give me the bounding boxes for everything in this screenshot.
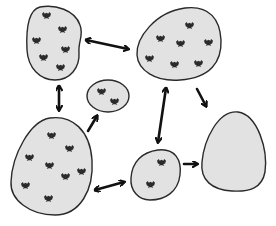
patch-bottom-right-empty (202, 112, 266, 191)
patch-bottom-middle (131, 150, 180, 200)
arrow-topright-bottommiddle (158, 88, 166, 142)
arrow-bottomleft-bottommiddle (95, 182, 124, 190)
arrow-bottomleft-smallcenter (88, 116, 97, 131)
patch-small-center (87, 80, 129, 112)
arrow-topleft-topright (86, 40, 128, 49)
arrow-topright-bottomright (197, 89, 206, 106)
patch-network-diagram (0, 0, 276, 226)
